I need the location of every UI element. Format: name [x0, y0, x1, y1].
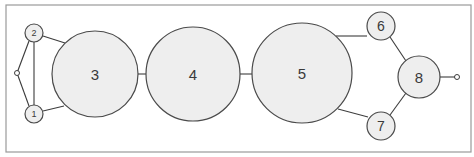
- node-8: 8: [398, 56, 440, 98]
- node-3: 3: [52, 31, 138, 117]
- terminal-out: [455, 75, 460, 80]
- node-1: 1: [25, 105, 43, 123]
- node-label: 8: [415, 69, 423, 86]
- node-label: 2: [31, 28, 36, 38]
- terminal-in: [15, 71, 20, 76]
- diagram-svg: 12345678: [0, 0, 474, 157]
- network-diagram: 12345678: [0, 0, 474, 157]
- node-4: 4: [146, 27, 240, 121]
- node-7: 7: [367, 112, 395, 140]
- node-label: 1: [31, 109, 36, 119]
- node-5: 5: [252, 23, 352, 123]
- node-2: 2: [25, 24, 43, 42]
- node-label: 7: [377, 118, 385, 134]
- node-label: 5: [298, 65, 306, 82]
- node-label: 3: [91, 66, 99, 83]
- node-6: 6: [367, 12, 395, 40]
- node-label: 6: [377, 18, 385, 34]
- node-label: 4: [189, 66, 197, 83]
